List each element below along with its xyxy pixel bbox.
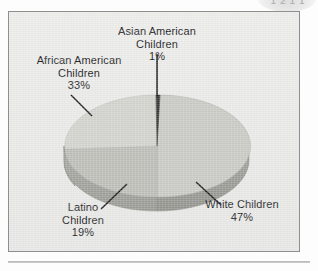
- pie-label-latino-percent: 19%: [39, 226, 127, 239]
- pie-label-african-american-children: African American Children 33%: [15, 54, 143, 92]
- pie-label-white-children: White Children 47%: [187, 198, 297, 223]
- pie-label-african-american-percent: 33%: [15, 79, 143, 92]
- pie-label-latino-children: Latino Children 19%: [39, 201, 127, 239]
- page-background: 1 2 1 1: [0, 0, 318, 271]
- pie-label-white-percent: 47%: [187, 211, 297, 224]
- leader-line-african-american: [71, 95, 92, 116]
- pie-label-african-american-line1: African American: [37, 54, 122, 66]
- figure-bottom-rule: [8, 261, 310, 263]
- pie-slice-latino-children: [65, 146, 157, 197]
- pie-label-latino-line2: Children: [62, 214, 104, 226]
- pie-label-african-american-line2: Children: [58, 67, 100, 79]
- figure-frame: Asian American Children 1% African Ameri…: [8, 11, 300, 252]
- page-header-artifact-text: 1 2 1 1: [268, 0, 308, 6]
- pie-label-asian-american-line2: Children: [136, 38, 178, 50]
- pie-label-asian-american-line1: Asian American: [118, 25, 196, 37]
- pie-label-white-line1: White Children: [205, 198, 279, 210]
- pie-label-latino-line1: Latino: [68, 201, 99, 213]
